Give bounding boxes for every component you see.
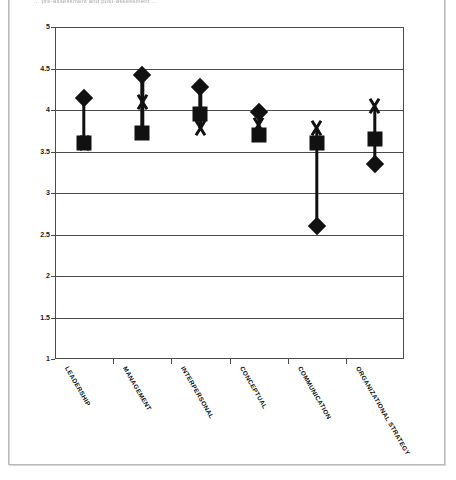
x-axis-tick-mark: [230, 359, 231, 364]
x-axis-category-label: COMMUNICATION: [297, 365, 333, 420]
gridline: [56, 235, 403, 236]
data-point-square: [135, 126, 150, 141]
y-axis-tick-label: 4.5: [26, 65, 50, 72]
gridline: [56, 69, 403, 70]
data-point-square: [251, 127, 266, 142]
y-axis-tick-label: 3.5: [26, 148, 50, 155]
x-axis-tick-mark: [113, 359, 114, 364]
x-axis-category-label: CONCEPTUAL: [239, 365, 269, 410]
scanned-page: ... pre-assessment and post-assessment .…: [0, 0, 456, 480]
y-axis-tick-mark: [51, 318, 55, 319]
data-point-cross: [366, 97, 383, 114]
y-axis-tick-label: 1: [26, 355, 50, 362]
gridline: [56, 152, 403, 153]
y-axis-tick-mark: [51, 235, 55, 236]
y-axis-tick-mark: [51, 193, 55, 194]
data-point-square: [367, 132, 382, 147]
gridline: [56, 276, 403, 277]
y-axis-tick-mark: [51, 27, 55, 28]
x-axis-category-label: LEADERSHIP: [64, 365, 92, 407]
y-axis-tick-label: 2: [26, 272, 50, 279]
y-axis-tick-label: 5: [26, 23, 50, 30]
y-axis-tick-mark: [51, 276, 55, 277]
gridline: [56, 318, 403, 319]
y-axis-tick-mark: [51, 359, 55, 360]
x-axis-category-label: MANAGEMENT: [122, 365, 153, 412]
data-point-square: [193, 107, 208, 122]
gridline: [56, 193, 403, 194]
y-axis-tick-label: 2.5: [26, 231, 50, 238]
x-axis-tick-mark: [346, 359, 347, 364]
data-point-square: [309, 136, 324, 151]
y-axis-tick-mark: [51, 110, 55, 111]
gridline: [56, 110, 403, 111]
x-axis-category-label: INTERPERSONAL: [180, 365, 216, 420]
y-axis-tick-label: 3: [26, 189, 50, 196]
x-axis-tick-mark: [288, 359, 289, 364]
data-point-cross: [308, 120, 325, 137]
plot-area: [55, 27, 404, 359]
data-point-cross: [134, 93, 151, 110]
y-axis-tick-label: 1.5: [26, 314, 50, 321]
x-axis-tick-mark: [171, 359, 172, 364]
y-axis-tick-mark: [51, 69, 55, 70]
chart-canvas: 54.543.532.521.51LEADERSHIPMANAGEMENTINT…: [0, 0, 456, 480]
data-point-cross: [192, 120, 209, 137]
data-point-square: [77, 136, 92, 151]
x-axis-category-label: ORGANIZATIONAL STRATEGY: [355, 365, 412, 456]
y-axis-tick-label: 4: [26, 106, 50, 113]
y-axis-tick-mark: [51, 152, 55, 153]
